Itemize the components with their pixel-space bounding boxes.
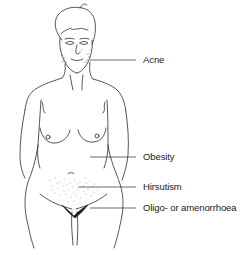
- navel: [68, 173, 74, 175]
- face-left: [60, 38, 77, 73]
- label-obesity: Obesity: [143, 152, 175, 162]
- right-inner-thigh: [77, 212, 78, 245]
- left-waist: [25, 145, 38, 248]
- left-nipple: [46, 135, 50, 139]
- neck-line: [70, 75, 73, 90]
- left-breast: [40, 128, 70, 143]
- right-waist: [108, 145, 123, 248]
- head-outline: [55, 7, 95, 44]
- right-brow: [80, 38, 89, 39]
- left-groin: [40, 194, 72, 209]
- right-eye: [80, 42, 88, 45]
- nose: [76, 45, 80, 54]
- right-nipple: [95, 134, 99, 138]
- left-shoulder: [25, 78, 62, 110]
- female-figure-illustration: [0, 0, 250, 255]
- neck-left: [62, 64, 65, 78]
- neck-right: [90, 62, 93, 79]
- label-hirsutism: Hirsutism: [143, 182, 182, 192]
- left-eye: [66, 42, 74, 45]
- left-inner-thigh: [72, 212, 73, 245]
- hirsutism-stipple: [50, 178, 99, 204]
- leader-lines: [78, 60, 136, 208]
- left-arm-inner: [38, 100, 41, 168]
- right-armpit: [103, 102, 105, 113]
- right-shoulder: [93, 79, 126, 112]
- left-armpit: [42, 102, 45, 113]
- left-brow: [65, 38, 74, 39]
- left-arm-outer: [20, 110, 25, 178]
- neck-line-2: [82, 75, 83, 90]
- right-arm-outer: [122, 112, 128, 180]
- label-acne: Acne: [143, 55, 164, 65]
- diagram-figure: Acne Obesity Hirsutism Oligo- or amenorr…: [0, 0, 250, 255]
- right-breast: [78, 128, 106, 142]
- fringe: [61, 28, 88, 34]
- mouth: [71, 59, 83, 61]
- right-groin: [76, 194, 107, 209]
- label-oligo-amenorrhoea: Oligo- or amenorrhoea: [143, 203, 236, 213]
